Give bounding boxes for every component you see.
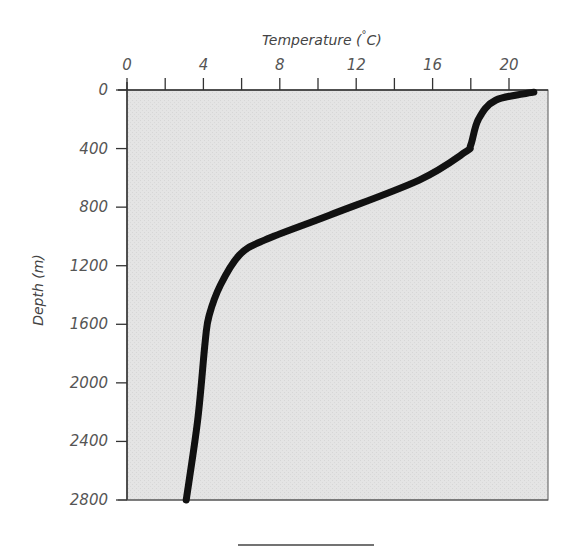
- x-tick-label: 4: [199, 56, 209, 74]
- y-tick-label: 1200: [70, 257, 108, 275]
- x-axis-ticks: [127, 78, 509, 90]
- x-axis-tick-labels: 048121620: [122, 56, 518, 74]
- x-tick-label: 8: [275, 56, 285, 74]
- x-tick-label: 12: [347, 56, 366, 74]
- y-tick-label: 2400: [70, 432, 108, 450]
- y-tick-label: 2000: [70, 374, 108, 392]
- y-tick-label: 2800: [70, 491, 108, 509]
- x-axis-title: Temperature (°C): [262, 29, 382, 48]
- plot-area: [127, 90, 548, 500]
- y-tick-label: 400: [79, 140, 108, 158]
- x-tick-label: 16: [423, 56, 442, 74]
- y-axis-title: Depth (m): [30, 254, 46, 326]
- y-tick-label: 0: [98, 81, 108, 99]
- y-axis-tick-labels: 040080012001600200024002800: [70, 81, 108, 509]
- temperature-depth-chart: 048121620 040080012001600200024002800 Te…: [0, 0, 583, 550]
- x-tick-label: 0: [122, 56, 132, 74]
- x-tick-label: 20: [499, 56, 518, 74]
- y-axis-ticks: [116, 90, 127, 500]
- y-tick-label: 800: [79, 198, 108, 216]
- y-tick-label: 1600: [70, 315, 108, 333]
